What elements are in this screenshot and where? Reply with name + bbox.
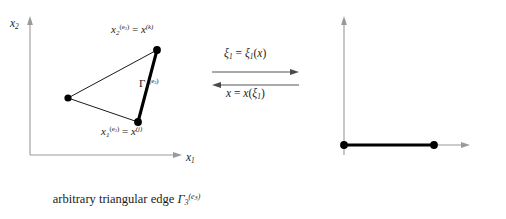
vertex-node-k bbox=[153, 46, 161, 54]
left-panel-physical-space: x2 x1 x2(e3) = x(k) x1(e3) = x(j) Γ3(e3)… bbox=[0, 0, 253, 219]
label-vertex-x1-e3: x1(e3) = x(j) bbox=[101, 126, 142, 139]
axis-label-x2: x2 bbox=[10, 18, 19, 30]
right-panel-drawing bbox=[253, 0, 506, 219]
label-vertex-x2-e3: x2(e3) = x(k) bbox=[111, 24, 153, 37]
interval-node-alpha2 bbox=[430, 141, 438, 149]
caption-left-panel: arbitrary triangular edge Γ3(e3) bbox=[0, 192, 253, 207]
vertex-node-left bbox=[64, 94, 71, 101]
x2-axis bbox=[27, 16, 33, 155]
right-panel-reference-space: ξ2 ξ1 0 1 α = 1 α = 2 unit interval [0, … bbox=[253, 0, 506, 219]
label-edge-gamma3: Γ3(e3) bbox=[139, 78, 159, 91]
axis-label-x1: x1 bbox=[186, 152, 195, 164]
figure-root: x2 x1 x2(e3) = x(k) x1(e3) = x(j) Γ3(e3)… bbox=[0, 0, 506, 219]
xi2-axis bbox=[341, 16, 347, 155]
interval-node-alpha1 bbox=[340, 141, 348, 149]
x1-axis bbox=[30, 152, 182, 158]
